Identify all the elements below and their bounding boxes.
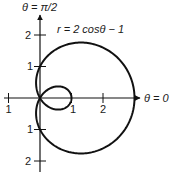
y-tick-label-2: 2 (25, 29, 31, 41)
y-tick-label-1: 1 (27, 60, 33, 72)
polar-plot: θ = π/2 θ = 0 r = 2 cosθ − 1 1 1 2 2 1 1… (0, 0, 177, 174)
y-tick-label-neg1: 1 (27, 123, 33, 135)
y-tick-label-neg2: 2 (25, 155, 31, 167)
equation-label: r = 2 cosθ − 1 (57, 23, 124, 35)
x-tick-label-neg1: 1 (6, 103, 12, 115)
x-tick-label-2: 2 (100, 103, 106, 115)
horizontal-axis-label: θ = 0 (144, 92, 170, 104)
vertical-axis-label: θ = π/2 (22, 1, 57, 13)
x-tick-label-1: 1 (70, 103, 76, 115)
